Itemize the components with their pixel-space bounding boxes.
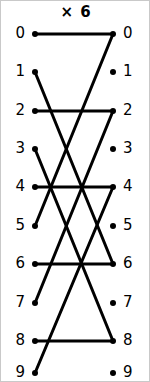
right-dots-group bbox=[110, 31, 116, 376]
node-dot-left-7 bbox=[32, 300, 38, 306]
node-dot-left-5 bbox=[32, 223, 38, 229]
node-dot-left-2 bbox=[32, 108, 38, 114]
node-label-left-2: 2 bbox=[9, 103, 25, 118]
node-label-right-1: 1 bbox=[123, 64, 139, 79]
node-label-left-9: 9 bbox=[9, 365, 25, 380]
node-dot-left-1 bbox=[32, 69, 38, 75]
node-dot-left-9 bbox=[32, 370, 38, 376]
edges-group bbox=[35, 34, 113, 373]
node-label-left-7: 7 bbox=[9, 295, 25, 310]
edge-line bbox=[35, 187, 113, 373]
node-label-right-0: 0 bbox=[123, 26, 139, 41]
node-label-right-4: 4 bbox=[123, 179, 139, 194]
node-label-left-0: 0 bbox=[9, 26, 25, 41]
node-dot-right-1 bbox=[110, 69, 116, 75]
node-dot-left-8 bbox=[32, 338, 38, 344]
node-label-left-3: 3 bbox=[9, 141, 25, 156]
node-label-left-8: 8 bbox=[9, 333, 25, 348]
node-label-right-7: 7 bbox=[123, 295, 139, 310]
node-dot-left-6 bbox=[32, 261, 38, 267]
edge-line bbox=[35, 111, 113, 303]
node-label-right-3: 3 bbox=[123, 141, 139, 156]
node-dot-right-3 bbox=[110, 146, 116, 152]
node-dot-left-3 bbox=[32, 146, 38, 152]
node-dot-left-4 bbox=[32, 184, 38, 190]
node-dot-right-0 bbox=[110, 31, 116, 37]
node-dot-right-8 bbox=[110, 338, 116, 344]
node-label-right-2: 2 bbox=[123, 103, 139, 118]
node-label-left-4: 4 bbox=[9, 179, 25, 194]
node-label-left-6: 6 bbox=[9, 256, 25, 271]
node-label-left-5: 5 bbox=[9, 218, 25, 233]
node-dot-right-7 bbox=[110, 300, 116, 306]
edge-line bbox=[35, 149, 113, 341]
modular-multiplication-figure: × 6 0123456789 0123456789 bbox=[0, 0, 150, 382]
node-dot-right-6 bbox=[110, 261, 116, 267]
node-label-left-1: 1 bbox=[9, 64, 25, 79]
node-label-right-8: 8 bbox=[123, 333, 139, 348]
node-label-right-5: 5 bbox=[123, 218, 139, 233]
edge-line bbox=[35, 34, 113, 226]
left-dots-group bbox=[32, 31, 38, 376]
node-label-right-6: 6 bbox=[123, 256, 139, 271]
node-dot-right-4 bbox=[110, 184, 116, 190]
node-dot-right-9 bbox=[110, 370, 116, 376]
node-label-right-9: 9 bbox=[123, 365, 139, 380]
node-dot-right-2 bbox=[110, 108, 116, 114]
edge-line bbox=[35, 72, 113, 264]
node-dot-right-5 bbox=[110, 223, 116, 229]
node-dot-left-0 bbox=[32, 31, 38, 37]
